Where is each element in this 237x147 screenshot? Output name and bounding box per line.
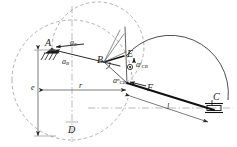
- vector-label-aCB-tangential: atCB: [136, 61, 148, 70]
- dimension-label-r: r: [79, 82, 82, 90]
- link-FC: [127, 83, 214, 110]
- point-label-E: E: [127, 49, 133, 59]
- vector-label-aCB-normal: anCB: [113, 77, 126, 86]
- point-label-F: F: [147, 83, 153, 93]
- construction-lines: [72, 6, 233, 142]
- diagram-canvas: A B C D E F aE aB atCB anCB e r l: [0, 0, 237, 147]
- point-label-C: C: [213, 92, 220, 102]
- dimension-e: [34, 50, 56, 136]
- point-label-D: D: [68, 125, 75, 135]
- dimension-label-l: l: [167, 103, 169, 111]
- vector-label-aE: aE: [70, 39, 77, 48]
- point-label-B: B: [97, 55, 103, 65]
- point-label-A: A: [45, 38, 51, 48]
- vector-label-aB: aB: [62, 58, 69, 67]
- ground-hatch-A: [41, 53, 58, 60]
- link-BE: [104, 56, 124, 62]
- dimension-label-e: e: [31, 84, 35, 92]
- diagram-svg: [0, 0, 237, 147]
- construction-circle-mid: [52, 2, 144, 83]
